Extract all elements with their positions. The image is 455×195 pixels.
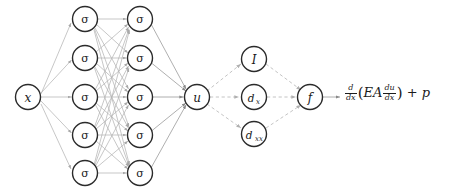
output-node-u-label: u (193, 91, 201, 105)
operator-node-identity[interactable]: I (242, 47, 267, 72)
operator-node-dx[interactable]: d x (242, 85, 267, 110)
operator-node-dxx[interactable]: d xx (242, 122, 267, 147)
input-node-x-label: x (25, 91, 32, 105)
hidden-layer-1: σ σ σ σ σ (73, 7, 98, 186)
equation-plus-sign: + (407, 85, 418, 100)
hidden2-node-1-label: σ (136, 13, 144, 26)
hidden1-node-5[interactable]: σ (73, 161, 98, 186)
equation-source-term: p (422, 85, 430, 100)
edges-operators-to-residual (266, 64, 301, 128)
hidden2-node-4-label: σ (136, 129, 144, 142)
hidden2-node-3-label: σ (136, 91, 144, 104)
equation-outer-denominator: dx (345, 94, 357, 103)
hidden2-node-5-label: σ (136, 167, 144, 180)
output-node-u[interactable]: u (185, 85, 210, 110)
hidden2-node-2-label: σ (136, 52, 144, 65)
operator-node-dxx-subscript: xx (255, 135, 263, 143)
equation-inner-derivative: du dx (383, 84, 395, 102)
input-node-x[interactable]: x (16, 85, 41, 110)
hidden2-node-1[interactable]: σ (128, 7, 153, 32)
edges-hidden1-to-hidden2 (94, 19, 130, 173)
hidden2-node-5[interactable]: σ (128, 161, 153, 186)
hidden1-node-4-label: σ (81, 129, 89, 142)
equation-coefficients: EA (364, 85, 383, 100)
hidden1-node-4[interactable]: σ (73, 123, 98, 148)
edges-hidden2-to-output (151, 24, 186, 168)
operator-node-dxx-label: d (246, 129, 253, 141)
hidden1-node-1[interactable]: σ (73, 7, 98, 32)
diagram-canvas: x σ σ σ σ σ (0, 0, 455, 195)
hidden2-node-4[interactable]: σ (128, 123, 153, 148)
hidden1-node-2[interactable]: σ (73, 46, 98, 71)
governing-equation: d dx (EA du dx ) + p (344, 84, 430, 102)
equation-close-paren: ) (397, 84, 403, 102)
equation-outer-derivative: d dx (345, 84, 357, 102)
hidden2-node-2[interactable]: σ (128, 46, 153, 71)
hidden2-node-3[interactable]: σ (128, 85, 153, 110)
operator-node-dx-label: d (248, 92, 255, 104)
hidden1-node-3-label: σ (81, 91, 89, 104)
hidden1-node-5-label: σ (81, 167, 89, 180)
edges-input-to-hidden1 (41, 23, 72, 169)
hidden1-node-3[interactable]: σ (73, 85, 98, 110)
operator-node-identity-label: I (251, 53, 257, 67)
hidden-layer-2: σ σ σ σ σ (128, 7, 153, 186)
hidden1-node-2-label: σ (81, 52, 89, 65)
hidden1-node-1-label: σ (81, 13, 89, 26)
edges-output-to-operators (207, 64, 241, 128)
equation-inner-denominator: dx (383, 94, 395, 103)
operator-node-dx-subscript: x (256, 98, 260, 106)
residual-node-f[interactable]: f (298, 85, 323, 110)
